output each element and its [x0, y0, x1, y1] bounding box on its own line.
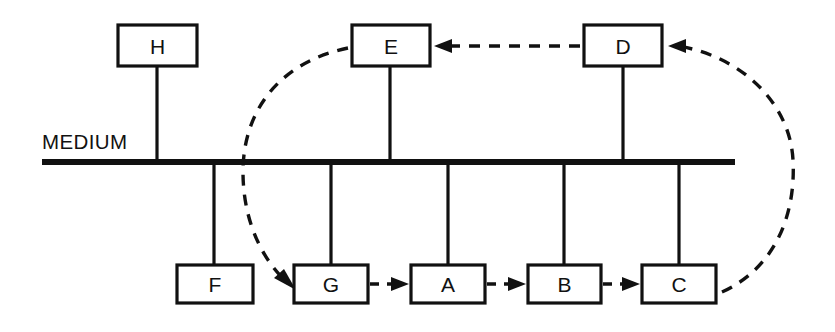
node-d[interactable]: D [584, 25, 662, 66]
node-e[interactable]: E [352, 25, 430, 66]
node-h-label: H [150, 35, 165, 58]
medium-label: MEDIUM [42, 130, 128, 153]
node-g-label: G [323, 273, 339, 296]
flow-c-to-d [678, 46, 793, 292]
node-e-label: E [384, 35, 398, 58]
node-d-label: D [615, 35, 630, 58]
node-b[interactable]: B [528, 265, 601, 303]
token-flow-layer [243, 46, 793, 292]
node-a[interactable]: A [411, 265, 485, 303]
diagram-canvas: MEDIUM H E D F G A B [0, 0, 835, 332]
arrow-into-e-icon [434, 39, 452, 53]
node-b-label: B [557, 273, 571, 296]
arrow-into-a-icon [391, 277, 409, 291]
arrow-into-d-icon [668, 39, 686, 53]
node-f-label: F [209, 273, 222, 296]
node-f[interactable]: F [177, 265, 253, 303]
node-c[interactable]: C [642, 265, 716, 303]
bus-network-diagram: MEDIUM H E D F G A B [0, 0, 835, 332]
arrow-into-b-icon [508, 277, 526, 291]
node-a-label: A [441, 273, 455, 296]
node-g[interactable]: G [294, 265, 368, 303]
node-stem-layer [157, 66, 679, 266]
node-h[interactable]: H [118, 25, 197, 66]
arrow-into-c-icon [622, 277, 640, 291]
node-c-label: C [671, 273, 686, 296]
